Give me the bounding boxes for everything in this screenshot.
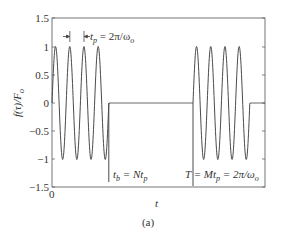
chart-figure: 1.510.50−0.5−1−1.5 tp = 2π/ωo tb = Ntp T… (0, 0, 281, 239)
x-tick-0: 0 (49, 188, 55, 200)
tp-arrows (63, 31, 90, 42)
y-axis-label: f(τ)/Fo (11, 89, 26, 117)
figure-caption: (a) (142, 216, 155, 229)
tp-annotation: tp = 2π/ωo (90, 30, 134, 45)
y-tick-label: 0 (44, 97, 50, 109)
T-annotation: T = Mtp = 2π/ωo (185, 168, 259, 183)
y-tick-label: 0.5 (35, 69, 49, 81)
y-tick-label: −1.5 (29, 181, 49, 193)
x-axis-label: t (155, 197, 159, 209)
y-tick-label: 1 (44, 41, 50, 53)
waveform-line (52, 47, 265, 160)
y-tick-label: −0.5 (29, 125, 49, 137)
tb-annotation: tb = Ntp (113, 168, 147, 183)
y-tick-label: −1 (37, 153, 49, 165)
y-tick-label: 1.5 (35, 12, 49, 24)
